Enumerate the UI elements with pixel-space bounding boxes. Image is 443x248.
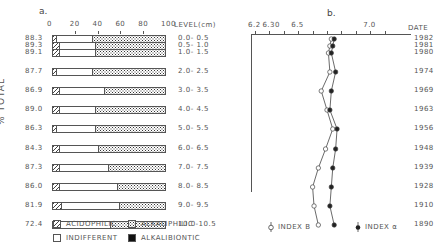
index-alpha-point <box>333 70 337 74</box>
date-label: 1890 <box>414 220 434 228</box>
date-label: 1948 <box>414 144 434 152</box>
legend-index-b: INDEX B <box>278 223 310 231</box>
legend-index-alpha: INDEX α <box>365 223 397 231</box>
index-b-point <box>316 166 320 170</box>
legend-acidophilic: ACIDOPHILIC <box>66 220 116 228</box>
index-alpha-point <box>335 127 339 131</box>
index-alpha-point <box>332 223 336 227</box>
index-b-point <box>328 70 332 74</box>
index-alpha-point <box>332 37 336 41</box>
legend-indifferent: INDIFFERENT <box>66 234 118 242</box>
index-b-point <box>331 127 335 131</box>
index-alpha-point <box>329 185 333 189</box>
index-alpha-point <box>328 204 332 208</box>
index-alpha-point <box>329 89 333 93</box>
legend-alkaliphilic: ALKALIPHILIC <box>141 220 193 228</box>
index-b-point <box>312 204 316 208</box>
index-b-point <box>319 89 323 93</box>
date-label: 1910 <box>414 201 434 209</box>
index-b-point <box>316 223 320 227</box>
acidophilic-swatch-icon <box>53 220 61 228</box>
date-label: 1969 <box>414 86 434 94</box>
indifferent-swatch-icon <box>53 234 61 242</box>
index-alpha-line <box>330 39 337 225</box>
date-label: 1963 <box>414 105 434 113</box>
alkaliphilic-swatch-icon <box>128 220 136 228</box>
date-label: 1928 <box>414 182 434 190</box>
index-alpha-point <box>331 44 335 48</box>
index-b-point <box>323 147 327 151</box>
ph-line-plot <box>0 0 443 248</box>
index-b-line <box>313 39 333 225</box>
index-alpha-point <box>333 147 337 151</box>
date-label: 1974 <box>414 67 434 75</box>
index-alpha-point <box>329 51 333 55</box>
index-b-point <box>310 185 314 189</box>
index-alpha-marker-icon <box>354 222 362 232</box>
index-alpha-point <box>331 166 335 170</box>
date-label: 1939 <box>414 163 434 171</box>
date-label: 1980 <box>414 48 434 56</box>
alkalibiontic-swatch-icon <box>128 234 136 242</box>
date-label: 1956 <box>414 124 434 132</box>
index-alpha-point <box>328 108 332 112</box>
legend-alkalibiontic: ALKALIBIONTIC <box>141 234 200 242</box>
index-b-marker-icon <box>267 222 275 232</box>
